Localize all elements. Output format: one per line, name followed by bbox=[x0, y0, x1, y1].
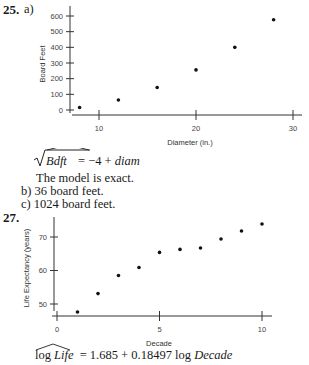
y-tick-label: 70 bbox=[39, 233, 47, 242]
data-point bbox=[96, 292, 100, 296]
data-point bbox=[260, 222, 264, 226]
data-point bbox=[219, 237, 223, 241]
y-tick-label: 50 bbox=[39, 300, 47, 309]
equation-rhs-prefix: = 1.685 + 0.18497 log bbox=[80, 348, 194, 362]
x-tick-label: 0 bbox=[55, 325, 59, 334]
problem-27-equation: log Life = 1.685 + 0.18497 log Decade bbox=[35, 348, 232, 363]
data-point bbox=[178, 248, 182, 252]
data-point bbox=[137, 266, 141, 270]
log-life-hat: log Life bbox=[35, 348, 74, 363]
data-point bbox=[158, 251, 162, 255]
x-tick-label: 10 bbox=[258, 325, 266, 334]
equation-rhs-var: Decade bbox=[194, 348, 232, 362]
life-expectancy-scatter-plot: 5060700510DecadeLife Expectancy (years) bbox=[0, 0, 309, 365]
data-point bbox=[76, 310, 80, 314]
data-point bbox=[117, 274, 121, 278]
x-tick-label: 5 bbox=[157, 325, 161, 334]
y-axis-label: Life Expectancy (years) bbox=[22, 228, 31, 307]
data-point bbox=[199, 246, 203, 250]
hat-icon bbox=[35, 343, 71, 351]
y-tick-label: 60 bbox=[39, 266, 47, 275]
x-axis-label: Decade bbox=[146, 339, 172, 348]
data-point bbox=[240, 229, 244, 233]
